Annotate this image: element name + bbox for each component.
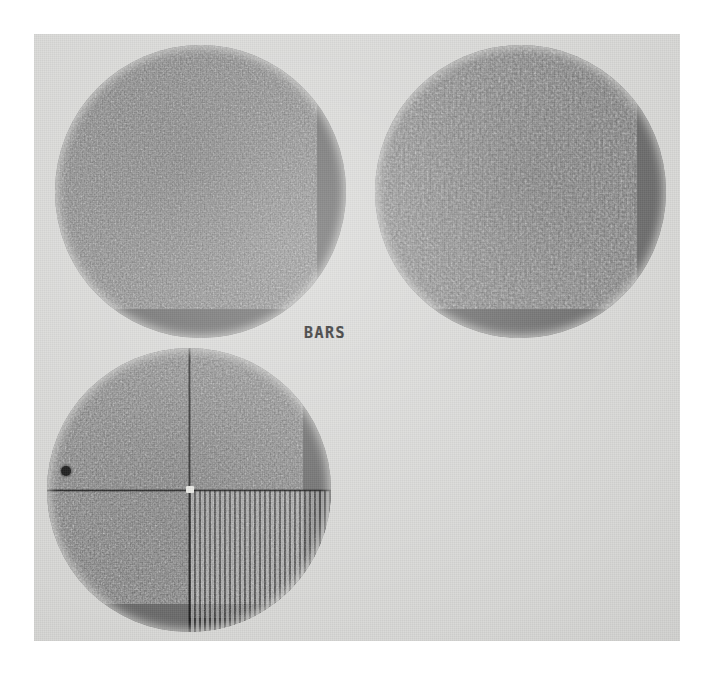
disc-soft-edge — [55, 45, 346, 338]
uniform-noise-disc-right — [375, 45, 666, 338]
bar-pattern-disc — [47, 348, 331, 632]
uniform-noise-disc-left — [55, 45, 346, 338]
scanned-plate: BARS — [34, 34, 680, 641]
disc-soft-edge — [47, 348, 331, 632]
disc-soft-edge — [375, 45, 666, 338]
bars-caption-label: BARS — [304, 324, 346, 342]
figure-root: BARS — [0, 0, 711, 680]
